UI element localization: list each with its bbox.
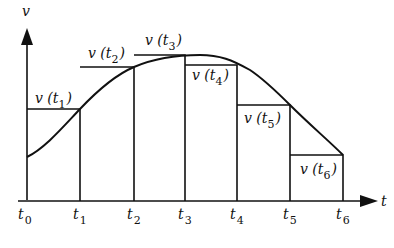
rect-label-5: v (t5) [244,110,281,131]
rect-1 [27,109,80,201]
y-axis-label: v [22,3,30,19]
rect-label-3: v (t3) [145,32,182,53]
rect-4 [185,65,237,201]
tick-t3: t3 [178,206,192,227]
tick-t6: t6 [336,206,350,227]
axes: v t [18,3,387,209]
rect-3 [134,55,185,201]
x-axis-label: t [381,193,387,209]
rect-label-6: v (t6) [300,161,337,182]
rect-2 [80,67,134,201]
tick-labels: t0 t1 t2 t3 t4 t5 t6 [18,206,350,227]
x-axis-arrowhead-icon [360,195,378,207]
y-axis-arrowhead-icon [21,28,33,45]
rect-label-1: v (t1) [35,90,72,111]
tick-t0: t0 [18,206,32,227]
tick-t4: t4 [230,206,244,227]
tick-t1: t1 [73,206,87,227]
tick-t5: t5 [283,206,297,227]
rect-label-4: v (t4) [192,67,229,88]
riemann-sum-diagram: v t v (t1) v (t2) v (t3) v (t4) v (t5) v… [0,0,394,248]
rect-label-2: v (t2) [88,45,125,66]
riemann-rectangles [27,55,343,201]
tick-t2: t2 [127,206,141,227]
